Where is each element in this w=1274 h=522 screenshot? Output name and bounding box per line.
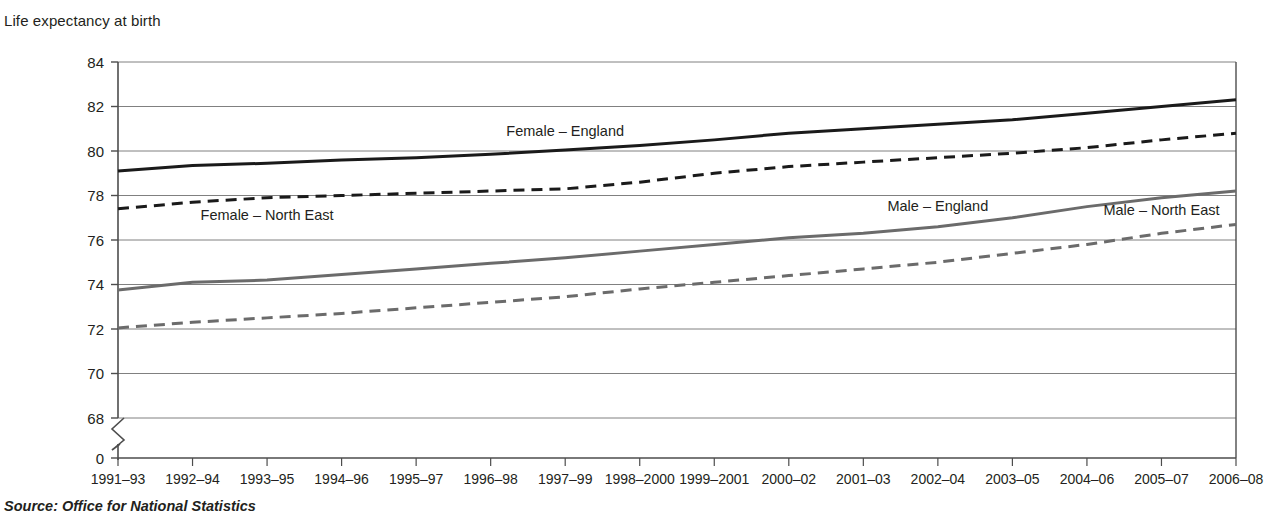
x-axis-tick-label: 1999–2001 <box>679 471 749 487</box>
source-note: Source: Office for National Statistics <box>4 498 256 514</box>
y-axis-tick-label: 78 <box>87 187 104 204</box>
x-axis-tick-label: 1992–94 <box>165 471 220 487</box>
y-axis-tick-label: 76 <box>87 232 104 249</box>
x-axis-tick-label: 2004–06 <box>1060 471 1115 487</box>
series-labels-group: Female – EnglandFemale – North EastMale … <box>201 123 1220 223</box>
series-line-1 <box>118 133 1236 209</box>
x-axis-tick-label: 2001–03 <box>836 471 891 487</box>
x-axis-tick-label: 2003–05 <box>985 471 1040 487</box>
y-axis-tick-label: 68 <box>87 410 104 427</box>
series-line-0 <box>118 100 1236 171</box>
x-axis-tick-label: 1997–99 <box>538 471 593 487</box>
x-axis-tick-label: 1994–96 <box>314 471 369 487</box>
y-axis-tick-label: 80 <box>87 143 104 160</box>
series-label-2: Male – England <box>887 198 988 214</box>
series-label-0: Female – England <box>506 123 624 139</box>
x-axis-tick-label: 2006–08 <box>1209 471 1264 487</box>
y-axis-tick-label: 72 <box>87 321 104 338</box>
y-axis-tick-label: 70 <box>87 365 104 382</box>
x-axis-labels-group: 1991–931992–941993–951994–961995–971996–… <box>91 471 1264 487</box>
x-axis-tick-label: 1995–97 <box>389 471 444 487</box>
x-axis-tick-label: 1993–95 <box>240 471 295 487</box>
y-axis-tick-label: 84 <box>87 54 104 71</box>
axis-break-icon <box>112 418 124 450</box>
x-axis-tick-label: 1991–93 <box>91 471 146 487</box>
y-axis-tick-label: 82 <box>87 98 104 115</box>
y-axis-labels-group: 6870727476788082840 <box>87 54 104 467</box>
x-axis-tick-label: 2005–07 <box>1134 471 1189 487</box>
y-axis-zero-label: 0 <box>96 450 104 467</box>
series-label-1: Female – North East <box>201 207 334 223</box>
y-axis-tick-label: 74 <box>87 276 104 293</box>
x-axis-ticks-group <box>118 458 1236 466</box>
x-axis-tick-label: 1996–98 <box>463 471 518 487</box>
x-axis-tick-label: 2002–04 <box>911 471 966 487</box>
x-axis-tick-label: 2000–02 <box>762 471 817 487</box>
x-axis-tick-label: 1998–2000 <box>605 471 675 487</box>
series-label-3: Male – North East <box>1103 202 1219 218</box>
y-axis-ticks-group <box>111 62 118 458</box>
chart-plot-area: 6870727476788082840 1991–931992–941993–9… <box>0 0 1274 522</box>
axes-group <box>112 62 1236 460</box>
life-expectancy-chart: Life expectancy at birth 687072747678808… <box>0 0 1274 522</box>
